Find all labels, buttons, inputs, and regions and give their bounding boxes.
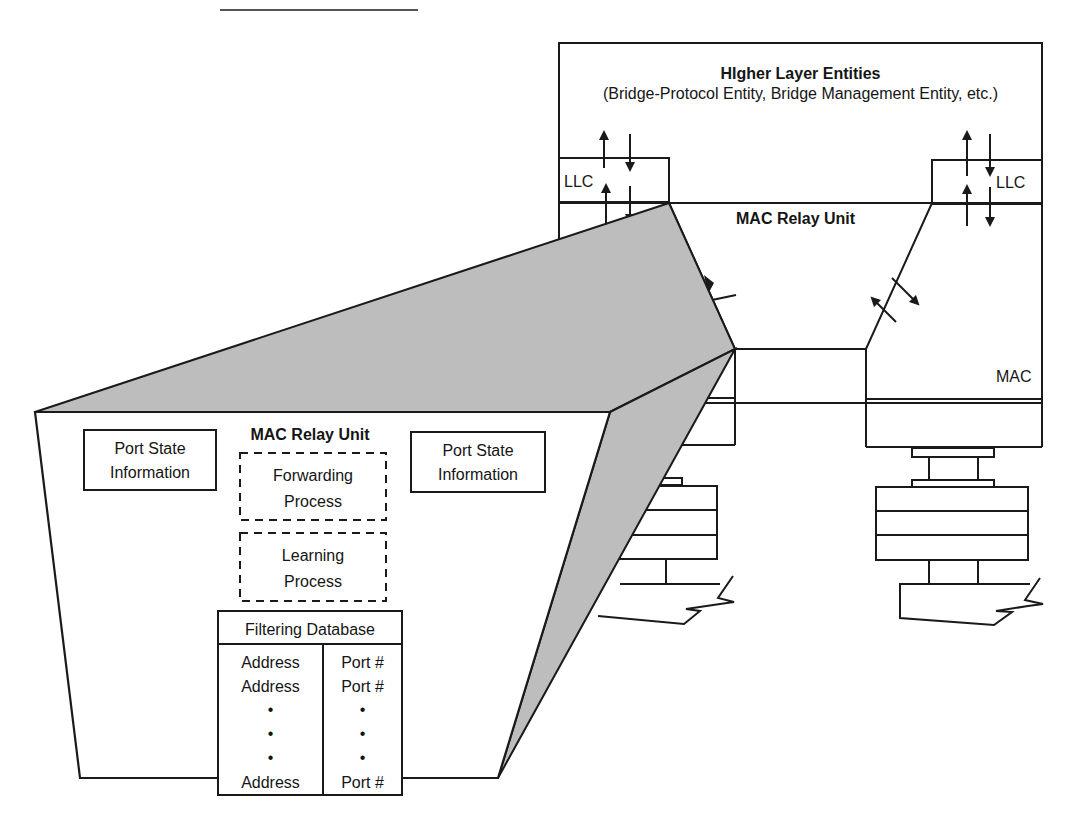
filtering-db-title: Filtering Database [218,620,402,639]
forwarding-line2: Process [240,492,386,511]
llc-left-label: LLC [564,172,593,191]
higher-layer-title: HIgher Layer Entities [559,64,1042,83]
table-cell-ellipsis: • [218,724,323,743]
table-cell-ellipsis: • [218,748,323,767]
table-cell-address: Address [218,773,323,792]
learning-line2: Process [240,572,386,591]
mac-right-label: MAC [996,367,1032,386]
bridge-architecture-diagram [0,0,1079,840]
port-state-left-line2: Information [84,463,216,482]
table-cell-ellipsis: • [323,748,402,767]
table-cell-port: Port # [323,677,402,696]
lan-segment-right [900,578,1043,625]
table-cell-ellipsis: • [218,700,323,719]
magnification-wedge [35,203,735,412]
forwarding-line1: Forwarding [240,466,386,485]
llc-right-label: LLC [996,173,1025,192]
zoom-relay-title: MAC Relay Unit [220,425,400,444]
port-state-left-line1: Port State [84,439,216,458]
table-cell-port: Port # [323,653,402,672]
relay-unit-title: MAC Relay Unit [736,209,855,228]
table-cell-port: Port # [323,773,402,792]
port-state-right-line2: Information [411,465,545,484]
learning-line1: Learning [240,546,386,565]
table-cell-ellipsis: • [323,700,402,719]
table-cell-address: Address [218,653,323,672]
table-cell-address: Address [218,677,323,696]
port-state-right-line1: Port State [411,441,545,460]
higher-layer-subtitle: (Bridge-Protocol Entity, Bridge Manageme… [559,84,1042,103]
table-cell-ellipsis: • [323,724,402,743]
